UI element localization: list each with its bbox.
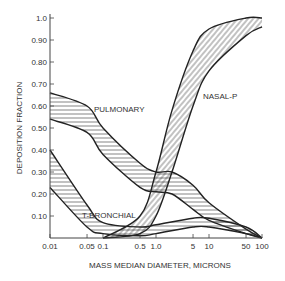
y-tick-label: 0.80	[31, 58, 47, 67]
bands	[50, 17, 262, 238]
y-tick-label: 0.60	[31, 102, 47, 111]
y-tick-label: 0.90	[31, 36, 47, 45]
x-tick-label: 1.0	[150, 242, 162, 251]
x-tick-label: 0.01	[42, 242, 58, 251]
x-tick-label: 10	[205, 242, 214, 251]
y-tick-label: 0.50	[31, 124, 47, 133]
y-tick-label: 0.70	[31, 80, 47, 89]
x-tick-label: 0.05	[79, 242, 95, 251]
annotation-nasal-p: NASAL-P	[203, 92, 237, 101]
x-tick-label: 0.1	[97, 242, 109, 251]
annotation-pulmonary: PULMONARY	[94, 105, 145, 114]
x-axis-label: MASS MEDIAN DIAMETER, MICRONS	[89, 261, 231, 270]
x-tick-label: 0.5	[134, 242, 146, 251]
y-tick-label: 0.20	[31, 190, 47, 199]
y-tick-label: 1.0	[36, 14, 48, 23]
annotation-t-bronchial: T-BRONCHIAL	[82, 211, 136, 220]
y-axis-label: DEPOSITION FRACTION	[15, 82, 24, 175]
y-tick-label: 0.10	[31, 212, 47, 221]
x-tick-label: 50	[242, 242, 251, 251]
deposition-chart: 0.100.200.300.400.500.600.700.800.901.00…	[0, 0, 285, 281]
y-tick-label: 0.40	[31, 146, 47, 155]
band-nasal-p	[103, 17, 262, 238]
x-tick-label: 100	[255, 242, 269, 251]
y-tick-label: 0.30	[31, 168, 47, 177]
x-tick-label: 5	[191, 242, 196, 251]
